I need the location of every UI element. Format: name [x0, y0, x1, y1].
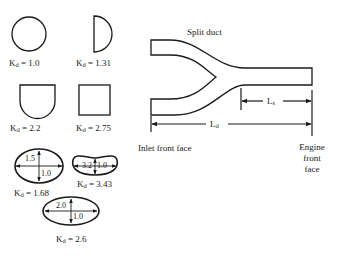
split-duct-drawing: [151, 40, 312, 115]
ls-label: Ls: [267, 96, 275, 108]
kd-label-circle: Kd = 1.0: [9, 58, 40, 70]
dim-major-ellipse-1: 1.5: [25, 155, 35, 163]
dim-major-kidney: 3.2: [82, 162, 92, 170]
kd-label-kidney: Kd = 3.43: [77, 179, 112, 191]
ld-label: Ld: [210, 119, 219, 131]
kd-label-ellipse-2: Kd = 2.6: [56, 234, 87, 246]
u-shape-section: [20, 85, 55, 118]
half-circle-section: [94, 16, 112, 52]
kd-label-half-circle: Kd = 1.31: [76, 58, 111, 70]
kd-label-square: Kd = 2.75: [76, 123, 111, 135]
circle-section: [12, 17, 46, 51]
dim-minor-ellipse-2: 1.0: [73, 213, 83, 221]
inlet-front-face-label: Inlet front face: [138, 143, 191, 153]
dim-major-ellipse-2: 2.0: [56, 202, 66, 210]
kd-label-u-shape: Kd = 2.2: [10, 123, 41, 135]
split-duct-title: Split duct: [187, 27, 222, 37]
square-section: [79, 85, 110, 115]
dim-minor-kidney: 1.0: [97, 162, 107, 170]
kd-label-ellipse-1: Kd = 1.68: [14, 188, 49, 200]
diagram-canvas: [0, 0, 341, 256]
dim-minor-ellipse-1: 1.0: [41, 170, 51, 178]
engine-front-face-label: Engine front face: [292, 142, 332, 175]
